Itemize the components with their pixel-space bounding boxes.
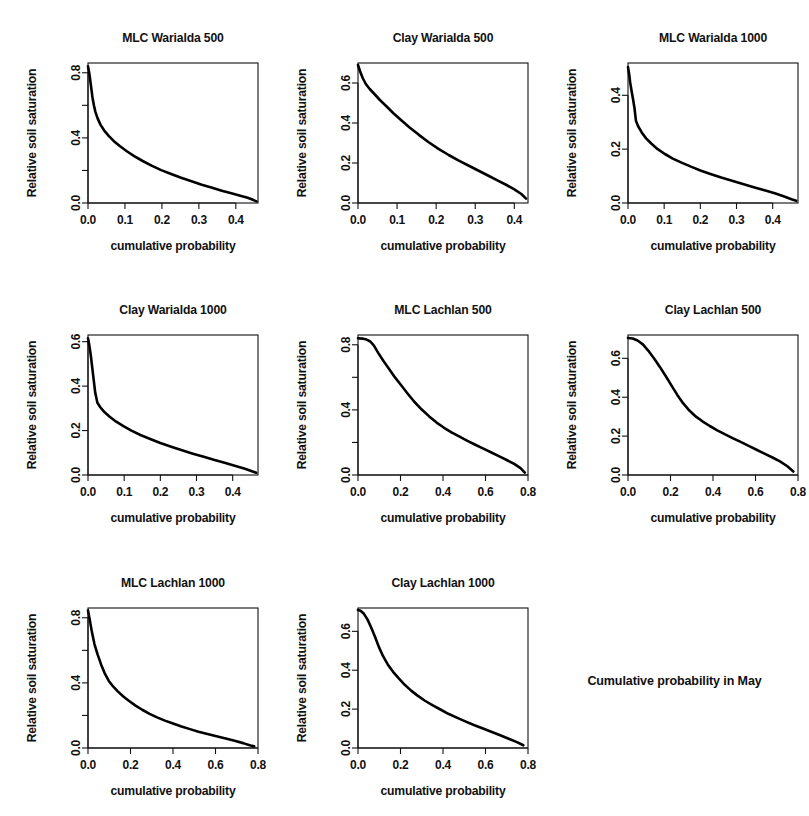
x-tick-label: 0.0 xyxy=(80,213,96,227)
panel-svg: MLC Warialda 10000.00.10.20.30.40.00.20.… xyxy=(540,0,809,272)
x-tick-label: 0.0 xyxy=(350,758,366,772)
panel-svg: Clay Lachlan 5000.00.20.40.60.80.00.20.4… xyxy=(540,272,809,544)
x-tick-label: 0.4 xyxy=(225,485,241,499)
x-tick-label: 0.3 xyxy=(189,485,205,499)
x-tick-label: 0.8 xyxy=(520,485,536,499)
chart-panel: Clay Lachlan 5000.00.20.40.60.80.00.20.4… xyxy=(540,272,809,544)
y-tick-label: 0.4 xyxy=(609,87,623,103)
x-tick-label: 0.4 xyxy=(435,485,451,499)
x-tick-label: 0.4 xyxy=(435,758,451,772)
x-tick-label: 0.0 xyxy=(80,485,96,499)
y-axis-label: Relative soil saturation xyxy=(25,69,39,198)
data-curve xyxy=(628,338,793,472)
x-tick-label: 0.4 xyxy=(228,213,244,227)
x-axis-label: cumulative probability xyxy=(381,239,506,253)
y-tick-label: 0.2 xyxy=(339,154,353,170)
x-tick-label: 0.3 xyxy=(729,213,745,227)
y-tick-label: 0.6 xyxy=(339,623,353,639)
plot-box xyxy=(88,335,258,475)
y-tick-label: 0.4 xyxy=(69,378,83,394)
x-tick-label: 0.0 xyxy=(620,213,636,227)
chart-panel: MLC Lachlan 10000.00.20.40.60.80.00.40.8… xyxy=(0,545,270,816)
panel-title: Clay Lachlan 1000 xyxy=(391,576,495,590)
x-tick-label: 0.8 xyxy=(250,758,266,772)
x-tick-label: 0.8 xyxy=(790,485,806,499)
data-curve xyxy=(88,66,257,201)
y-tick-label: 0.2 xyxy=(609,141,623,157)
chart-panel: Clay Lachlan 10000.00.20.40.60.80.00.20.… xyxy=(270,545,540,816)
y-tick-label: 0.8 xyxy=(339,336,353,352)
panel-title: MLC Lachlan 500 xyxy=(394,303,492,317)
x-tick-label: 0.2 xyxy=(663,485,679,499)
plot-box xyxy=(358,608,528,748)
x-tick-label: 0.6 xyxy=(208,758,224,772)
x-tick-label: 0.6 xyxy=(478,758,494,772)
panel-title: MLC Warialda 1000 xyxy=(659,31,767,45)
data-curve xyxy=(88,338,256,472)
x-tick-label: 0.2 xyxy=(393,758,409,772)
data-curve xyxy=(358,610,523,745)
x-tick-label: 0.8 xyxy=(520,758,536,772)
x-tick-label: 0.3 xyxy=(191,213,207,227)
panel-svg: MLC Lachlan 10000.00.20.40.60.80.00.40.8… xyxy=(0,545,270,816)
y-axis-label: Relative soil saturation xyxy=(295,69,309,198)
y-tick-label: 0.4 xyxy=(339,662,353,678)
y-tick-label: 0.0 xyxy=(609,194,623,210)
x-tick-label: 0.2 xyxy=(123,758,139,772)
y-tick-label: 0.4 xyxy=(609,389,623,405)
panel-title: Clay Warialda 500 xyxy=(393,31,494,45)
y-tick-label: 0.8 xyxy=(69,64,83,80)
y-tick-label: 0.0 xyxy=(339,466,353,482)
y-axis-label: Relative soil saturation xyxy=(295,614,309,743)
panel-title: Clay Warialda 1000 xyxy=(119,303,227,317)
x-tick-label: 0.1 xyxy=(116,485,132,499)
x-tick-label: 0.0 xyxy=(350,485,366,499)
y-tick-label: 0.2 xyxy=(609,428,623,444)
x-axis-label: cumulative probability xyxy=(651,239,776,253)
y-tick-label: 0.0 xyxy=(609,466,623,482)
x-tick-label: 0.3 xyxy=(467,213,483,227)
x-tick-label: 0.2 xyxy=(154,213,170,227)
x-tick-label: 0.2 xyxy=(393,485,409,499)
y-axis-label: Relative soil saturation xyxy=(25,341,39,470)
y-tick-label: 0.2 xyxy=(69,422,83,438)
chart-panel: Clay Warialda 5000.00.10.20.30.40.00.20.… xyxy=(270,0,540,272)
x-tick-label: 0.2 xyxy=(152,485,168,499)
x-tick-label: 0.4 xyxy=(506,213,522,227)
panel-title: MLC Warialda 500 xyxy=(122,31,224,45)
y-tick-label: 0.0 xyxy=(69,466,83,482)
x-tick-label: 0.0 xyxy=(620,485,636,499)
x-axis-label: cumulative probability xyxy=(651,511,776,525)
data-curve xyxy=(358,65,526,199)
x-tick-label: 0.4 xyxy=(765,213,781,227)
figure-caption-cell: Cumulative probability in May xyxy=(540,545,809,816)
y-tick-label: 0.4 xyxy=(339,114,353,130)
x-tick-label: 0.4 xyxy=(705,485,721,499)
chart-panel: Clay Warialda 10000.00.10.20.30.40.00.20… xyxy=(0,272,270,544)
x-tick-label: 0.1 xyxy=(656,213,672,227)
y-tick-label: 0.4 xyxy=(339,401,353,417)
x-axis-label: cumulative probability xyxy=(381,511,506,525)
x-tick-label: 0.0 xyxy=(80,758,96,772)
x-axis-label: cumulative probability xyxy=(111,511,236,525)
chart-panel: MLC Warialda 10000.00.10.20.30.40.00.20.… xyxy=(540,0,809,272)
x-tick-label: 0.1 xyxy=(389,213,405,227)
panel-title: MLC Lachlan 1000 xyxy=(121,576,225,590)
x-tick-label: 0.1 xyxy=(117,213,133,227)
y-tick-label: 0.8 xyxy=(69,609,83,625)
y-tick-label: 0.6 xyxy=(69,333,83,349)
figure-caption: Cumulative probability in May xyxy=(587,674,761,688)
plot-box xyxy=(88,63,258,203)
chart-panel: MLC Lachlan 5000.00.20.40.60.80.00.40.8c… xyxy=(270,272,540,544)
panel-title: Clay Lachlan 500 xyxy=(665,303,762,317)
x-tick-label: 0.2 xyxy=(692,213,708,227)
y-tick-label: 0.4 xyxy=(69,129,83,145)
panel-svg: MLC Warialda 5000.00.10.20.30.40.00.40.8… xyxy=(0,0,270,272)
y-tick-label: 0.6 xyxy=(339,74,353,90)
plot-box xyxy=(628,63,798,203)
data-curve xyxy=(358,338,525,472)
y-tick-label: 0.0 xyxy=(339,739,353,755)
x-tick-label: 0.6 xyxy=(478,485,494,499)
y-axis-label: Relative soil saturation xyxy=(295,341,309,470)
x-axis-label: cumulative probability xyxy=(111,239,236,253)
